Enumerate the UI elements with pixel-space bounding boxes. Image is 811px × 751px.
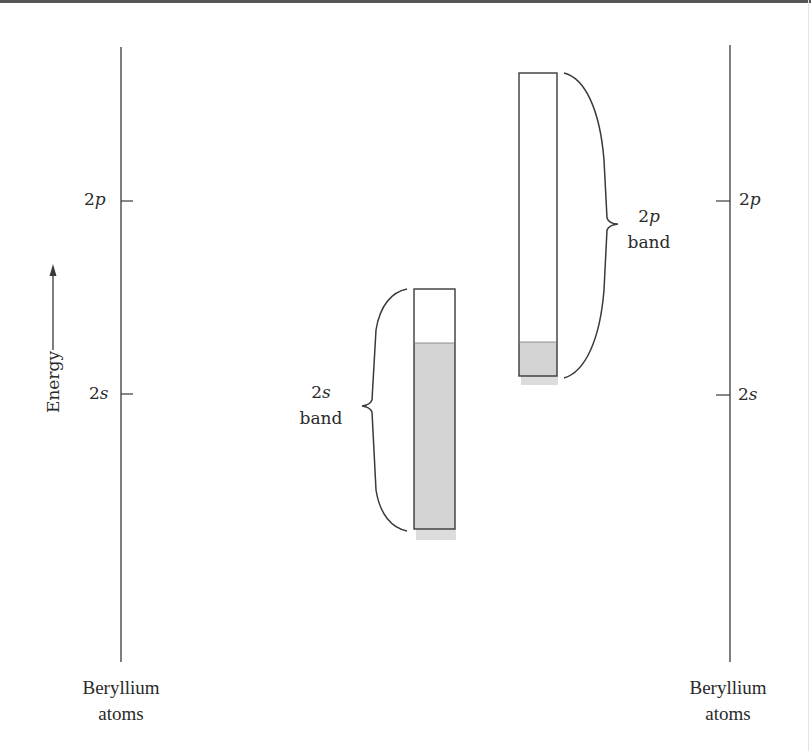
right-level-2p-label: 2p (739, 189, 761, 209)
right-caption: Beryllium atoms (668, 675, 788, 727)
band-2s-filled (414, 343, 455, 529)
left-level-2s-label: 2s (89, 383, 109, 403)
band-2p-shadow (521, 376, 558, 385)
energy-arrow-icon (50, 264, 57, 350)
left-caption: Beryllium atoms (61, 675, 181, 727)
right-level-2s-label: 2s (738, 384, 758, 404)
band-2s-label-word: band (291, 405, 351, 431)
right-caption-line2: atoms (668, 701, 788, 727)
band-2p-label-word: band (619, 229, 679, 255)
band-2p (519, 73, 618, 385)
band-2s-label: 2s band (291, 379, 351, 431)
band-2s (362, 289, 456, 540)
energy-axis-label: Energy (43, 353, 63, 413)
band-2p-label-orbital: 2p (619, 203, 679, 229)
band-diagram (0, 0, 811, 751)
band-2s-shadow (416, 529, 456, 540)
left-caption-line2: atoms (61, 701, 181, 727)
band-2p-label: 2p band (619, 203, 679, 255)
band-2p-outline (519, 73, 557, 376)
brace-2p-icon (564, 73, 618, 378)
band-2p-filled (519, 342, 557, 376)
left-level-2p-label: 2p (84, 189, 106, 209)
brace-2s-icon (362, 289, 407, 531)
band-2s-label-orbital: 2s (291, 379, 351, 405)
right-caption-line1: Beryllium (668, 675, 788, 701)
left-caption-line1: Beryllium (61, 675, 181, 701)
